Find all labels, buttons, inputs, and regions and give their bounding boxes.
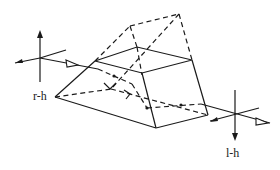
label-r-h: r-h — [33, 90, 47, 102]
prism-solid-edges — [55, 47, 208, 128]
label-l-h: l-h — [226, 147, 239, 159]
prism-diagram — [0, 0, 280, 170]
output-axes — [210, 90, 259, 141]
input-axes — [15, 30, 66, 82]
